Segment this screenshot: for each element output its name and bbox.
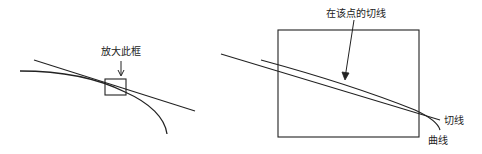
- tangent-line: [34, 60, 195, 111]
- curve-magnified: [261, 60, 440, 130]
- left-panel: 放大此框: [20, 45, 195, 134]
- tangent-point-label: 在该点的切线: [326, 7, 386, 19]
- right-panel: 在该点的切线 切线 曲线: [221, 7, 464, 146]
- magnified-box: [278, 30, 419, 137]
- tangent-arrow-shaft: [345, 20, 354, 78]
- zoom-label: 放大此框: [101, 45, 141, 57]
- tangent-label: 切线: [444, 114, 464, 126]
- curve: [20, 71, 167, 134]
- diagram-canvas: 放大此框 在该点的切线 切线 曲线: [0, 0, 482, 154]
- tangent-arrow-head-icon: [342, 72, 349, 80]
- tangent-line-magnified: [221, 54, 440, 120]
- curve-label: 曲线: [428, 134, 448, 146]
